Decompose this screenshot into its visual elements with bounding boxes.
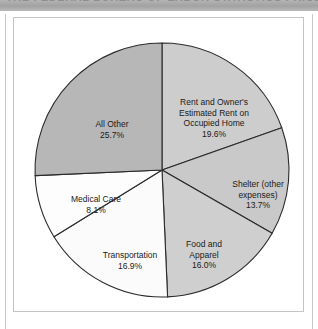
page-rule-right — [312, 14, 313, 329]
figure-frame: Rent and Owner's Estimated Rent on Occup… — [13, 17, 304, 312]
pie-slice-group — [35, 43, 289, 297]
page-rule-left — [5, 14, 6, 329]
pie-chart — [14, 18, 303, 311]
cropped-header-band: THE FEDERAL BUREAU OF LABOR STATISTICS P… — [0, 0, 318, 11]
figure-screenshot: THE FEDERAL BUREAU OF LABOR STATISTICS P… — [0, 0, 318, 329]
header-band-text: THE FEDERAL BUREAU OF LABOR STATISTICS P… — [6, 0, 318, 3]
pie-slice-all-other — [35, 43, 162, 176]
